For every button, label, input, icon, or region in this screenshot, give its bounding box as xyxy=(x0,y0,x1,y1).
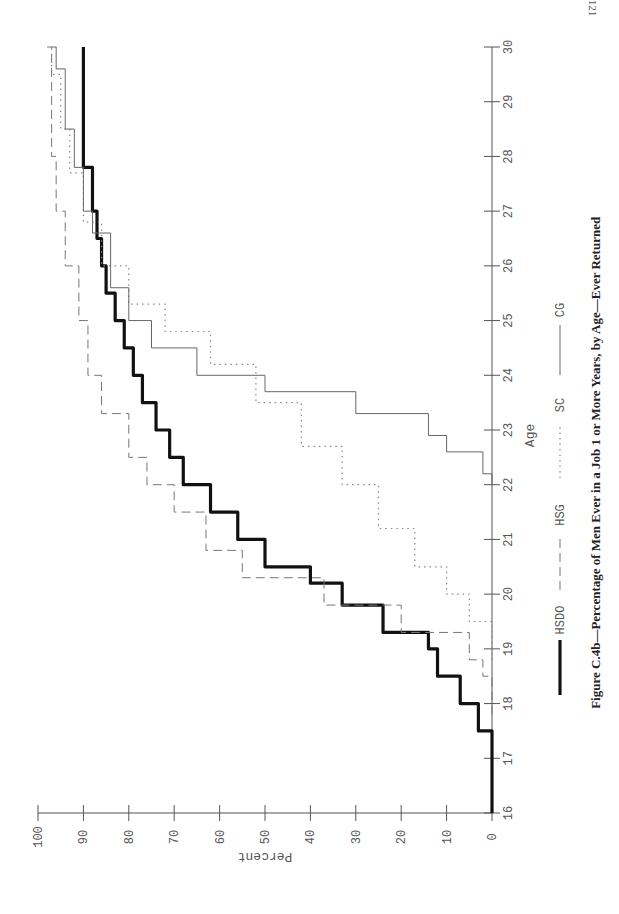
figure-caption: Figure C.4b—Percentage of Men Ever in a … xyxy=(588,216,603,709)
series-line-hsg xyxy=(47,47,492,715)
series-line-cg xyxy=(52,47,492,485)
age-tick-label: 29 xyxy=(502,95,516,109)
age-tick-label: 17 xyxy=(502,751,516,765)
age-tick-label: 27 xyxy=(502,204,516,218)
age-tick-label: 18 xyxy=(502,696,516,710)
percent-tick-label: 50 xyxy=(259,830,273,844)
legend-label-hsdo: HSDO xyxy=(554,606,568,635)
age-tick-label: 21 xyxy=(502,532,516,546)
age-tick-label: 24 xyxy=(502,368,516,382)
age-tick-label: 26 xyxy=(502,259,516,273)
percent-tick-label: 40 xyxy=(304,830,318,844)
legend: HSDOHSGSCCG xyxy=(554,303,568,695)
age-tick-label: 22 xyxy=(502,478,516,492)
age-tick-label: 19 xyxy=(502,642,516,656)
percent-tick-label: 70 xyxy=(168,830,182,844)
age-tick-label: 16 xyxy=(502,806,516,820)
age-tick-label: 25 xyxy=(502,313,516,327)
figure-caption-text: Figure C.4b—Percentage of Men Ever in a … xyxy=(588,216,603,709)
legend-label-hsg: HSG xyxy=(554,504,568,526)
age-tick-label: 30 xyxy=(502,40,516,54)
age-axis-title: Age xyxy=(523,424,538,447)
percent-tick-label: 30 xyxy=(350,830,364,844)
percent-tick-label: 100 xyxy=(32,826,46,848)
series-line-hsdo xyxy=(83,47,492,813)
age-tick-label: 23 xyxy=(502,423,516,437)
percent-tick-label: 20 xyxy=(395,830,409,844)
percent-tick-label: 90 xyxy=(77,830,91,844)
percent-axis-title: Percent xyxy=(238,849,293,864)
series-lines xyxy=(47,47,492,813)
percent-tick-label: 10 xyxy=(441,830,455,844)
percent-tick-label: 80 xyxy=(123,830,137,844)
age-tick-label: 20 xyxy=(502,587,516,601)
percent-tick-label: 60 xyxy=(214,830,228,844)
rotated-line-chart: 161718192021222324252627282930Age0102030… xyxy=(0,0,619,914)
legend-label-sc: SC xyxy=(554,398,568,412)
age-tick-label: 28 xyxy=(502,149,516,163)
legend-label-cg: CG xyxy=(554,303,568,317)
percent-tick-label: 0 xyxy=(486,833,500,840)
